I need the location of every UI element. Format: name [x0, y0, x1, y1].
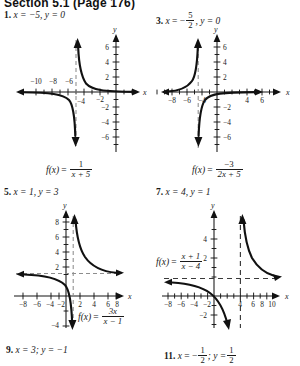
- problem-3-number: 3.: [156, 16, 163, 26]
- svg-text:−2: −2: [203, 300, 211, 309]
- graph-2-arrow-down: [194, 137, 202, 147]
- svg-text:−8: −8: [19, 300, 27, 309]
- graph-1-caption-fname: f(x): [46, 165, 59, 175]
- svg-text:6: 6: [260, 96, 264, 105]
- svg-text:−6: −6: [33, 300, 41, 309]
- problem-7-answer-text: x = 4, y = 1: [166, 187, 211, 197]
- problem-11-var: x: [178, 351, 182, 361]
- graph-3-arrow-left: [16, 271, 24, 278]
- graph-4-xlabel: x: [284, 292, 289, 301]
- svg-text:−8: −8: [164, 300, 172, 309]
- graph-2-arrow-up: [194, 38, 202, 48]
- graph-4-arrow-right-down: [273, 274, 282, 281]
- graph-2-curve-left: [167, 48, 198, 92]
- svg-text:10: 10: [268, 300, 276, 309]
- graph-1-caption-fraction: 1x + 5: [70, 160, 93, 179]
- graph-1-ylabel: y: [112, 25, 117, 34]
- svg-text:−6: −6: [223, 133, 231, 142]
- svg-text:−8: −8: [49, 77, 57, 86]
- graph-2-svg: −8 −6 −4 4 6 6 4 2 −2 −4 −6 x y: [155, 26, 297, 158]
- graph-1-caption-numerator: 1: [70, 160, 93, 169]
- problem-7-number: 7.: [156, 187, 163, 197]
- svg-text:−4: −4: [46, 300, 54, 309]
- problem-11-fraction-2-denominator: 2: [227, 355, 235, 365]
- svg-text:6: 6: [223, 43, 227, 52]
- svg-text:−6: −6: [65, 77, 73, 86]
- svg-text:6: 6: [105, 43, 109, 52]
- graph-1-arrow-up: [74, 38, 82, 48]
- problem-11-fraction-2-numerator: 1: [227, 346, 235, 355]
- graph-3-caption-fraction: 3xx − 1: [102, 307, 125, 326]
- problem-3-equals: =: [172, 16, 177, 26]
- svg-text:4: 4: [105, 58, 109, 67]
- graph-2-caption-equals: =: [205, 165, 214, 175]
- graph-1-curve-left: [22, 92, 75, 136]
- svg-text:2: 2: [223, 73, 227, 82]
- graph-3-curve-right: [76, 220, 117, 273]
- problem-3-fraction-numerator: 5: [186, 11, 194, 20]
- svg-text:−2: −2: [101, 103, 109, 112]
- svg-text:8: 8: [260, 300, 264, 309]
- graph-4-caption-fname: f(x): [156, 257, 169, 267]
- problem-11-fraction-1: 12: [198, 346, 206, 365]
- graph-3-xlabel: x: [127, 292, 132, 301]
- problem-3-var: x: [166, 16, 170, 26]
- graph-4-curve-right: [244, 220, 275, 276]
- graph-1-svg: −10 −8 −6 −4 −2 6 4 2 −2 −4 −6 x y: [8, 26, 148, 158]
- svg-text:−4: −4: [51, 321, 59, 330]
- svg-text:6: 6: [251, 300, 255, 309]
- graph-2-xlabel: x: [285, 88, 290, 97]
- svg-text:4: 4: [245, 96, 249, 105]
- graph-4-caption-numerator: x + 1: [180, 252, 203, 261]
- svg-text:−4: −4: [190, 300, 198, 309]
- graph-3-caption: f(x)=3xx − 1: [78, 307, 125, 326]
- svg-text:2: 2: [55, 263, 59, 272]
- svg-text:−6: −6: [177, 300, 185, 309]
- problem-11-fraction-1-numerator: 1: [198, 346, 206, 355]
- graph-1: −10 −8 −6 −4 −2 6 4 2 −2 −4 −6 x y: [8, 26, 148, 158]
- graph-4-caption-denominator: x − 4: [180, 261, 203, 271]
- svg-text:−4: −4: [223, 118, 231, 127]
- graph-1-curve-right: [78, 48, 136, 92]
- svg-text:−6: −6: [101, 133, 109, 142]
- svg-text:−2: −2: [223, 103, 231, 112]
- graph-2: −8 −6 −4 4 6 6 4 2 −2 −4 −6 x y: [155, 26, 297, 158]
- svg-text:4: 4: [223, 58, 227, 67]
- graph-4-arrow-up-right: [238, 214, 246, 224]
- problem-3-sign: −: [180, 16, 185, 26]
- svg-text:2: 2: [105, 73, 109, 82]
- graph-1-arrow-down: [72, 137, 80, 147]
- graph-2-caption-fraction: −32x + 5: [216, 160, 243, 179]
- graph-4-arrow-down: [223, 319, 231, 330]
- svg-text:8: 8: [55, 218, 59, 227]
- svg-text:6: 6: [55, 233, 59, 242]
- problem-1-answer: 1. x = −5, y = 0: [4, 11, 65, 21]
- problem-9-answer-text: x = 3; y = −1: [16, 345, 68, 355]
- graph-2-caption-fname: f(x): [192, 165, 205, 175]
- graph-4-caption-equals: =: [169, 257, 178, 267]
- svg-text:−8: −8: [168, 96, 176, 105]
- graph-1-caption-equals: =: [59, 165, 68, 175]
- problem-5-number: 5.: [4, 187, 11, 197]
- svg-text:−4: −4: [77, 97, 85, 106]
- graph-4-ylabel: y: [210, 201, 215, 210]
- graph-3-arrow-down: [68, 320, 76, 330]
- problem-11-answer: 11. x = −12; y =12: [164, 346, 237, 365]
- svg-text:4: 4: [203, 235, 207, 244]
- graph-4-caption-fraction: x + 1x − 4: [180, 252, 203, 271]
- svg-text:−2: −2: [199, 311, 207, 320]
- problem-1-answer-text: x = −5, y = 0: [14, 10, 65, 20]
- problem-11-sign: −: [192, 351, 197, 361]
- svg-text:2: 2: [203, 254, 207, 263]
- graph-1-caption-denominator: x + 5: [70, 169, 93, 179]
- problem-7-answer: 7. x = 4, y = 1: [156, 188, 211, 198]
- graph-3-caption-denominator: x − 1: [102, 316, 125, 326]
- graph-3-caption-equals: =: [91, 312, 100, 322]
- svg-text:4: 4: [55, 248, 59, 257]
- graph-2-x-tick-labels: −8 −6 −4 4 6: [168, 96, 264, 105]
- svg-text:−4: −4: [198, 96, 206, 105]
- svg-text:4: 4: [238, 300, 242, 309]
- graph-3-arrow-up-right: [71, 214, 79, 224]
- svg-text:−6: −6: [183, 96, 191, 105]
- problem-5-answer: 5. x = 1, y = 3: [4, 188, 59, 198]
